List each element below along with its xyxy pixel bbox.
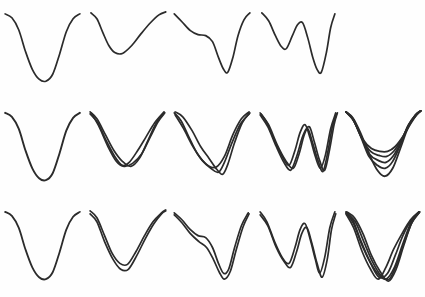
curve-line-r2c5-4: [346, 111, 421, 157]
curve-panel-r3c4: [255, 198, 340, 297]
curve-line-r3c2-1: [90, 210, 166, 265]
curve-line-r3c4-2: [260, 214, 336, 277]
curve-line-r1c3-1: [174, 13, 250, 73]
curve-line-r2c4-2: [260, 114, 337, 172]
curve-line-r3c4-1: [260, 212, 335, 273]
curve-panel-r3c2: [85, 198, 170, 297]
curve-plot-r1c1: [0, 0, 85, 99]
curve-line-r2c5-5: [346, 111, 421, 152]
curve-line-r2c5-2: [346, 111, 421, 169]
curve-plot-r2c3: [170, 99, 255, 198]
curve-panel-r3c5: [340, 198, 425, 297]
curve-line-r1c2-1: [91, 12, 166, 54]
curve-line-r1c4-1: [262, 13, 335, 73]
curve-panel-r1c4: [255, 0, 340, 99]
curve-panel-r1c1: [0, 0, 85, 99]
curve-plot-r3c4: [255, 198, 340, 297]
curve-line-r2c5-3: [346, 111, 421, 163]
curve-plot-r2c4: [255, 99, 340, 198]
curve-plot-r2c5: [340, 99, 425, 198]
curve-panel-r1c2: [85, 0, 170, 99]
curve-line-r2c3-2: [175, 112, 250, 175]
curve-plot-r1c3: [170, 0, 255, 99]
curve-line-r2c5-1: [346, 111, 421, 176]
curve-line-r2c2-1: [90, 112, 164, 167]
curve-plot-r1c2: [85, 0, 170, 99]
curve-panel-r2c5: [340, 99, 425, 198]
curve-line-r3c3-1: [174, 213, 248, 274]
curve-line-r1c1-1: [5, 14, 80, 82]
curve-line-r2c2-2: [90, 112, 164, 166]
curve-panel-r3c3: [170, 198, 255, 297]
curve-line-r3c1-1: [5, 212, 80, 280]
curve-panel-r2c2: [85, 99, 170, 198]
curve-panel-r2c4: [255, 99, 340, 198]
curve-plot-r2c2: [85, 99, 170, 198]
panel-grid: [0, 0, 425, 297]
curve-line-r2c2-3: [91, 113, 165, 167]
curve-line-r2c1-1: [5, 113, 80, 181]
curve-panel-r2c3: [170, 99, 255, 198]
curve-panel-r2c1: [0, 99, 85, 198]
figure-root: [0, 0, 425, 297]
curve-panel-r3c1: [0, 198, 85, 297]
curve-plot-r3c5: [340, 198, 425, 297]
curve-panel-r1c3: [170, 0, 255, 99]
curve-plot-r2c1: [0, 99, 85, 198]
curve-plot-r3c3: [170, 198, 255, 297]
curve-plot-r3c1: [0, 198, 85, 297]
curve-plot-r3c2: [85, 198, 170, 297]
curve-plot-r1c4: [255, 0, 340, 99]
